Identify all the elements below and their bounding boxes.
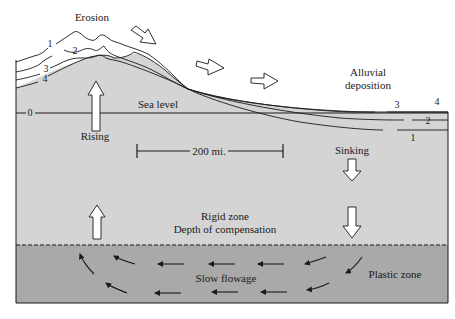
erosion-label: Erosion	[75, 11, 110, 23]
sea-level-label: Sea level	[138, 98, 178, 110]
plastic-zone-label: Plastic zone	[369, 268, 422, 280]
profile-number-0-sea-level: 0	[28, 107, 33, 118]
profile-number-4-right: 4	[435, 96, 440, 107]
profile-number-1-left: 1	[48, 38, 53, 49]
slow-flowage-label: Slow flowage	[196, 272, 257, 284]
profile-number-3-right: 3	[395, 99, 400, 110]
sinking-label: Sinking	[335, 144, 370, 156]
depth-of-compensation-label: Depth of compensation	[174, 223, 277, 235]
alluvial-deposition-label-line2: deposition	[345, 79, 391, 91]
profile-number-1-right: 1	[411, 132, 416, 143]
rigid-zone-label: Rigid zone	[201, 210, 249, 222]
erosion-transport-arrow-3-icon	[251, 73, 278, 89]
isostasy-diagram: 1 2 3 4 0 3 4 2 1 Erosion Alluvial depos…	[0, 0, 455, 319]
profile-number-2-right: 2	[426, 115, 431, 126]
erosion-transport-arrow-1-icon	[131, 26, 156, 44]
profile-number-2-left: 2	[73, 45, 78, 56]
scale-bar-label: 200 mi.	[192, 145, 226, 157]
rising-label: Rising	[81, 130, 110, 142]
profile-number-4-left: 4	[43, 73, 48, 84]
erosion-transport-arrow-2-icon	[196, 59, 224, 75]
alluvial-deposition-label-line1: Alluvial	[350, 66, 386, 78]
